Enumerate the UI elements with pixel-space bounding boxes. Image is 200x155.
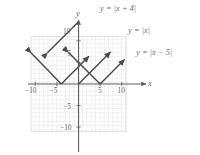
y-tick-label-5: 5 xyxy=(68,49,72,58)
curve-label-x: y = |x| xyxy=(128,26,150,35)
absolute-value-graph-figure: y = |x + 4| y = |x| y = |x − 5| x y −10 … xyxy=(0,0,200,155)
y-tick-label-10: 10 xyxy=(63,27,70,36)
curve-label-x-minus-5: y = |x − 5| xyxy=(136,48,172,57)
x-tick-label-10: 10 xyxy=(118,86,125,95)
x-tick-label-5: 5 xyxy=(98,86,102,95)
y-axis-label: y xyxy=(76,9,80,18)
y-tick-label-neg5: −5 xyxy=(63,102,71,111)
y-tick-label-neg10: −10 xyxy=(60,123,72,132)
x-tick-label-neg5: −5 xyxy=(50,86,58,95)
x-tick-label-neg10: −10 xyxy=(25,86,37,95)
x-axis-label: x xyxy=(148,79,152,88)
curve-label-x-plus-4: y = |x + 4| xyxy=(100,4,136,13)
coordinate-plane xyxy=(0,0,200,155)
